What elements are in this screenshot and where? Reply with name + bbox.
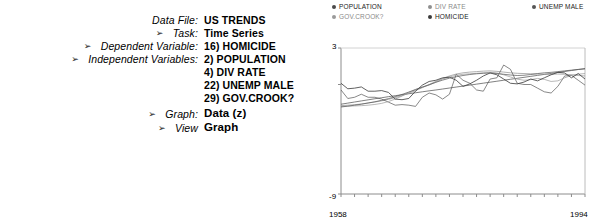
legend-marker-dot-icon <box>532 5 536 9</box>
field-value[interactable]: 29) GOV.CROOK? <box>204 92 294 104</box>
field-value[interactable]: 16) HOMICIDE <box>204 40 276 52</box>
arrow-bullet-icon: ➢ <box>84 42 92 51</box>
field-value[interactable]: 2) POPULATION <box>204 53 286 65</box>
series-line-homicide <box>341 72 585 99</box>
legend-label: HOMICIDE <box>435 13 469 20</box>
legend-label: DIV RATE <box>435 3 466 10</box>
legend-marker-dot-icon <box>428 15 432 19</box>
series-line-unemp-male <box>341 65 585 106</box>
chart-legend: POPULATIONGOV.CROOK?DIV RATEHOMICIDEUNEM… <box>332 3 614 25</box>
field-label: Graph: <box>165 108 198 120</box>
time-series-chart-panel: POPULATIONGOV.CROOK?DIV RATEHOMICIDEUNEM… <box>318 0 614 224</box>
field-label: Task: <box>173 27 198 39</box>
x-axis-start-label: 1958 <box>329 210 347 219</box>
legend-item[interactable]: DIV RATE <box>428 3 466 10</box>
legend-label: POPULATION <box>339 3 382 10</box>
field-label: Data File: <box>152 14 198 26</box>
arrow-bullet-icon: ➢ <box>148 110 156 119</box>
plot-area: 3 -9 1958 1994 <box>318 30 614 224</box>
legend-label: GOV.CROOK? <box>339 13 384 20</box>
field-value[interactable]: Data (z) <box>204 107 246 119</box>
legend-marker-dot-icon <box>332 5 336 9</box>
field-label: View <box>175 122 198 134</box>
x-axis-end-label: 1994 <box>570 210 588 219</box>
field-value[interactable]: 4) DIV RATE <box>204 66 266 78</box>
arrow-bullet-icon: ➢ <box>71 55 79 64</box>
field-value[interactable]: US TRENDS <box>204 14 266 26</box>
y-axis-min-label: -9 <box>329 192 336 201</box>
legend-item[interactable]: UNEMP MALE <box>532 3 583 10</box>
analysis-settings-panel: Data File:US TRENDS➢Task:Time Series➢Dep… <box>0 0 318 224</box>
legend-item[interactable]: HOMICIDE <box>428 13 469 20</box>
series-line-homicide-trend <box>341 69 585 107</box>
legend-label: UNEMP MALE <box>539 3 583 10</box>
field-label: Dependent Variable: <box>101 40 198 52</box>
field-label: Independent Variables: <box>88 53 198 65</box>
series-plot <box>318 30 614 224</box>
legend-marker-dot-icon <box>428 5 432 9</box>
legend-marker-dot-icon <box>332 15 336 19</box>
legend-item[interactable]: GOV.CROOK? <box>332 13 384 20</box>
arrow-bullet-icon: ➢ <box>158 124 166 133</box>
field-value[interactable]: Time Series <box>204 27 264 39</box>
legend-item[interactable]: POPULATION <box>332 3 382 10</box>
field-value[interactable]: 22) UNEMP MALE <box>204 79 294 91</box>
arrow-bullet-icon: ➢ <box>156 29 164 38</box>
field-value[interactable]: Graph <box>204 121 238 133</box>
y-axis-max-label: 3 <box>332 42 336 51</box>
